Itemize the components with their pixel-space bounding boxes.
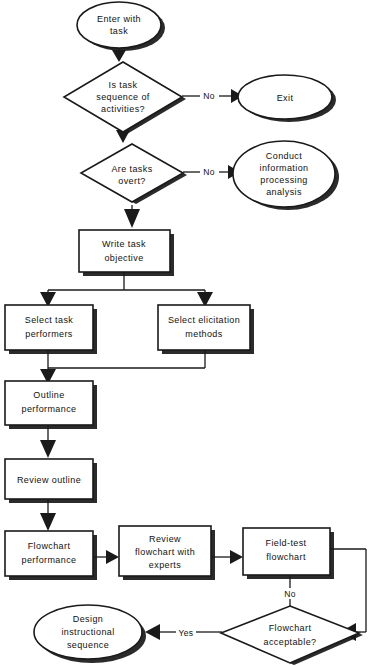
label-design-line3: sequence: [67, 640, 109, 650]
flowchart-canvas: Enter with task Is task sequence of acti…: [0, 0, 376, 666]
arrowhead-d2-write: [124, 209, 140, 228]
label-reviewflow-line3: experts: [149, 560, 181, 570]
label-outline-line1: Outline: [33, 390, 64, 400]
label-review-outline: Review outline: [17, 475, 81, 485]
arrowhead-review-flowperf: [40, 513, 56, 531]
edge-label-fieldtest-no: No: [284, 589, 295, 599]
label-elicitation-line2: methods: [185, 329, 222, 339]
node-select-task-performers[interactable]: [5, 305, 93, 350]
label-performers-line2: performers: [25, 329, 73, 339]
label-elicitation-line1: Select elicitation: [168, 315, 240, 325]
label-fieldtest-line1: Field-test: [265, 538, 306, 548]
label-conduct-line4: analysis: [266, 187, 302, 197]
label-enter-line1: Enter with: [97, 14, 141, 24]
label-conduct-line3: processing: [260, 175, 308, 185]
node-write-task-objective[interactable]: [79, 230, 170, 272]
label-d3-line1: Flowchart: [269, 623, 312, 633]
node-flowchart-acceptable[interactable]: [221, 606, 359, 663]
flowchart-svg: Enter with task Is task sequence of acti…: [0, 0, 376, 666]
node-select-elicitation-methods[interactable]: [158, 305, 250, 350]
edge-label-d1-no: No: [203, 91, 214, 101]
label-enter-line2: task: [110, 26, 128, 36]
label-write-line2: objective: [104, 253, 143, 263]
label-d1-line2: sequence of: [96, 92, 150, 102]
label-exit: Exit: [277, 93, 294, 103]
node-flowchart-performance[interactable]: [5, 531, 93, 576]
label-flowperf-line1: Flowchart: [28, 541, 71, 551]
label-fieldtest-line2: flowchart: [266, 552, 306, 562]
arrowhead-flowperf-reviewflow: [106, 550, 119, 564]
label-flowperf-line2: performance: [22, 555, 77, 565]
label-d2-line2: overt?: [118, 176, 145, 186]
arrowhead-reviewflow-fieldtest: [230, 550, 243, 564]
label-write-line1: Write task: [102, 239, 146, 249]
label-reviewflow-line2: flowchart with: [135, 547, 195, 557]
arrowhead-d3-design: [145, 624, 160, 640]
node-outline-performance[interactable]: [5, 381, 93, 425]
label-design-line1: Design: [73, 614, 103, 624]
label-design-line2: instructional: [61, 627, 114, 637]
arrowhead-enter-d1: [112, 50, 126, 62]
label-conduct-line2: information: [260, 163, 309, 173]
label-performers-line1: Select task: [25, 315, 74, 325]
arrowhead-outline-review: [40, 440, 56, 458]
label-d1-line3: activities?: [101, 104, 145, 114]
node-enter-with-task[interactable]: [77, 2, 161, 48]
label-outline-line2: performance: [22, 404, 77, 414]
label-d1-line1: Is task: [109, 80, 138, 90]
label-d2-line1: Are tasks: [111, 164, 152, 174]
label-conduct-line1: Conduct: [266, 151, 302, 161]
edge-label-d3-yes: Yes: [179, 628, 194, 638]
edge-label-d2-no: No: [203, 167, 214, 177]
label-reviewflow-line1: Review: [149, 534, 181, 544]
label-d3-line2: acceptable?: [264, 637, 317, 647]
